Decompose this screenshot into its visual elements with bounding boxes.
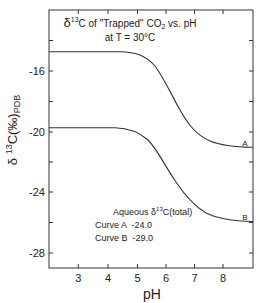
xtick-label: 4	[105, 272, 111, 284]
xtick-label: 7	[191, 272, 197, 284]
xtick-label: 5	[134, 272, 140, 284]
xtick-label: 8	[220, 272, 226, 284]
chart: -16 -20 -24 -28 3 4 5 6 7 8 pH δ 13C(‰)P…	[0, 0, 260, 303]
xtick-label: 6	[163, 272, 169, 284]
curve-a-label: A	[242, 139, 248, 148]
chart-title: δ13C of "Trapped" CO2 vs. pH	[64, 15, 197, 30]
y-axis-label: δ 13C(‰)PDB	[4, 95, 22, 165]
curve-b-label: B	[242, 213, 247, 222]
curve-a	[49, 52, 253, 148]
ytick-label: -24	[29, 186, 45, 198]
x-axis-label: pH	[143, 286, 161, 302]
chart-subtitle: at T = 30°C	[105, 32, 156, 43]
legend-title: Aqueous δ13C(total)	[113, 206, 192, 217]
legend-curve-b: Curve B -29.0	[95, 233, 153, 243]
legend-curve-a: Curve A -24.0	[95, 220, 152, 230]
xtick-label: 3	[75, 272, 81, 284]
ytick-label: -16	[29, 65, 45, 77]
ytick-label: -20	[29, 126, 45, 138]
ytick-label: -28	[29, 247, 45, 259]
